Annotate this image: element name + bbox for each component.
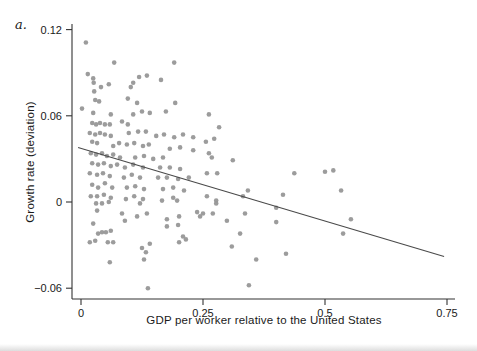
data-point: [97, 99, 102, 104]
data-point: [108, 174, 113, 179]
data-point: [231, 158, 236, 163]
data-point: [112, 60, 117, 65]
data-point: [125, 185, 130, 190]
data-point: [110, 185, 115, 190]
data-point: [96, 162, 101, 167]
data-point: [165, 217, 170, 222]
data-point: [120, 119, 125, 124]
data-point: [225, 218, 230, 223]
data-point: [104, 230, 109, 235]
data-point: [95, 141, 100, 146]
data-point: [184, 237, 189, 242]
data-point: [92, 89, 97, 94]
data-point: [151, 157, 156, 162]
data-point: [281, 193, 286, 198]
data-point: [178, 145, 183, 150]
data-point: [175, 198, 180, 203]
data-point: [136, 129, 141, 134]
x-tick-label: 0: [78, 307, 84, 319]
data-point: [168, 147, 173, 152]
data-point: [108, 260, 113, 265]
data-point: [238, 231, 243, 236]
y-tick-label: 0.12: [41, 24, 62, 36]
data-point: [103, 132, 108, 137]
data-point: [204, 139, 209, 144]
data-point: [177, 240, 182, 245]
data-point: [95, 172, 100, 177]
data-point: [109, 112, 114, 117]
data-point: [117, 141, 122, 146]
data-point: [96, 185, 101, 190]
data-point: [91, 221, 96, 226]
data-point: [161, 187, 166, 192]
data-point: [145, 211, 150, 216]
data-point: [156, 175, 161, 180]
data-point: [198, 214, 203, 219]
data-point: [140, 109, 145, 114]
data-point: [246, 188, 251, 193]
data-point: [126, 96, 131, 101]
data-point: [159, 78, 164, 83]
data-point: [84, 40, 89, 45]
data-point: [172, 60, 177, 65]
data-point: [91, 76, 96, 81]
data-point: [341, 231, 346, 236]
data-point: [107, 82, 112, 87]
y-tick-label: 0.06: [41, 110, 62, 122]
data-point: [93, 239, 98, 244]
data-point: [148, 241, 153, 246]
data-point: [101, 171, 106, 176]
data-point: [247, 283, 252, 288]
data-point: [91, 111, 96, 116]
data-point: [89, 194, 94, 199]
data-point: [181, 132, 186, 137]
data-point: [178, 167, 183, 172]
data-point: [154, 134, 159, 139]
data-point: [115, 162, 120, 167]
data-point: [339, 188, 344, 193]
data-point: [102, 193, 107, 198]
data-point: [140, 246, 145, 251]
data-point: [138, 175, 143, 180]
data-point: [126, 122, 131, 127]
data-point: [98, 131, 103, 136]
data-point: [147, 142, 152, 147]
data-point: [230, 244, 235, 249]
data-point: [103, 181, 108, 186]
data-point: [130, 172, 135, 177]
data-point: [133, 184, 138, 189]
data-point: [160, 198, 165, 203]
data-point: [173, 101, 178, 106]
data-point: [191, 135, 196, 140]
data-point: [103, 122, 108, 127]
data-point: [142, 154, 147, 159]
data-point: [292, 171, 297, 176]
data-point: [207, 112, 212, 117]
data-point: [111, 240, 116, 245]
data-point: [331, 168, 336, 173]
data-point: [111, 152, 116, 157]
data-point: [187, 175, 192, 180]
panel-label: a.: [15, 17, 27, 32]
data-point: [214, 201, 219, 206]
data-point: [132, 141, 137, 146]
scatter-figure: a. Growth rate (deviation) −0.0600.060.1…: [0, 0, 477, 351]
data-point: [164, 109, 169, 114]
data-point: [211, 211, 216, 216]
data-point: [215, 171, 220, 176]
data-point: [205, 194, 210, 199]
data-point: [138, 201, 143, 206]
data-point: [88, 240, 93, 245]
scan-page-edge: [0, 344, 477, 351]
data-point: [100, 201, 105, 206]
data-point: [349, 217, 354, 222]
data-point: [158, 165, 163, 170]
data-point: [144, 250, 149, 255]
data-point: [217, 125, 222, 130]
data-point: [131, 81, 136, 86]
data-point: [145, 73, 150, 78]
data-point: [88, 171, 93, 176]
trend-line: [78, 147, 444, 256]
data-point: [107, 200, 112, 205]
data-point: [141, 197, 146, 202]
